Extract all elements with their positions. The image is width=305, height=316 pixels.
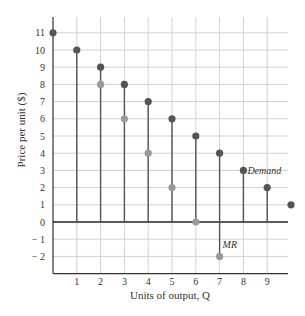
x-tick-label: 4	[146, 276, 151, 287]
demand-point	[287, 201, 294, 208]
demand-point	[145, 98, 152, 105]
x-tick-label: 8	[241, 276, 246, 287]
y-tick-label: 0	[40, 217, 45, 228]
grid-lines	[53, 17, 288, 274]
x-tick-label: 5	[170, 276, 175, 287]
x-tick-label: 2	[98, 276, 103, 287]
demand-point	[168, 115, 175, 122]
x-tick-label: 6	[193, 276, 198, 287]
price-output-chart: − 2− 101234567891011123456789 DemandMR U…	[0, 0, 305, 316]
x-tick-label: 3	[122, 276, 127, 287]
y-tick-label: 11	[35, 27, 45, 38]
mr-label: MR	[222, 239, 237, 250]
x-tick-label: 7	[217, 276, 222, 287]
demand-label: Demand	[246, 165, 282, 176]
y-tick-label: 3	[40, 165, 45, 176]
demand-point	[97, 64, 104, 71]
demand-point	[240, 167, 247, 174]
demand-point	[264, 184, 271, 191]
y-tick-label: 2	[40, 182, 45, 193]
axes	[53, 17, 288, 274]
y-tick-label: 1	[40, 199, 45, 210]
y-axis-label: Price per unit ($)	[15, 92, 28, 167]
mr-point	[121, 115, 128, 122]
y-tick-label: 8	[40, 79, 45, 90]
demand-point	[73, 46, 80, 53]
series-labels: DemandMR	[222, 165, 283, 251]
demand-point	[216, 150, 223, 157]
y-tick-label: − 1	[32, 234, 45, 245]
x-tick-label: 1	[74, 276, 79, 287]
y-tick-label: − 2	[32, 251, 45, 262]
y-tick-label: 6	[40, 113, 45, 124]
mr-point	[192, 218, 199, 225]
mr-point	[97, 81, 104, 88]
mr-point	[145, 150, 152, 157]
demand-point	[49, 29, 56, 36]
x-tick-label: 9	[265, 276, 270, 287]
y-tick-label: 4	[40, 148, 45, 159]
y-tick-label: 9	[40, 62, 45, 73]
y-tick-label: 10	[35, 45, 45, 56]
y-tick-label: 5	[40, 131, 45, 142]
y-tick-label: 7	[40, 96, 45, 107]
demand-point	[121, 81, 128, 88]
x-axis-label: Units of output, Q	[130, 289, 210, 301]
mr-point	[216, 253, 223, 260]
mr-point	[168, 184, 175, 191]
demand-point	[192, 132, 199, 139]
